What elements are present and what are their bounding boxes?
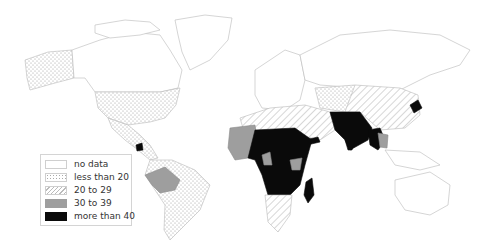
region-canada <box>72 32 182 92</box>
region-sahel-central-east-africa <box>248 128 312 195</box>
legend-label: more than 40 <box>74 211 135 221</box>
swatch-hatched <box>45 186 67 195</box>
swatch-dotted <box>45 173 67 182</box>
legend-label: 30 to 39 <box>74 198 112 208</box>
swatch-black <box>45 212 67 221</box>
region-kenya-area <box>290 158 302 170</box>
region-se-asia-islands <box>385 150 440 170</box>
region-europe <box>255 50 305 110</box>
region-madagascar <box>304 178 314 203</box>
legend-item-30-to-39: 30 to 39 <box>45 197 112 209</box>
region-greenland <box>175 15 232 70</box>
legend-item-no-data: no data <box>45 158 108 170</box>
region-russia <box>300 30 470 90</box>
map-legend: no data less than 20 20 to 29 30 to 39 m… <box>40 154 132 226</box>
region-southern-africa <box>265 195 292 232</box>
legend-item-more-than-40: more than 40 <box>45 210 135 222</box>
region-alaska <box>25 50 74 90</box>
region-india-south <box>345 140 355 150</box>
legend-item-20-to-29: 20 to 29 <box>45 184 112 196</box>
legend-label: less than 20 <box>74 172 129 182</box>
region-australia <box>395 172 450 215</box>
legend-item-less-than-20: less than 20 <box>45 171 129 183</box>
region-usa <box>95 88 180 125</box>
legend-label: no data <box>74 159 108 169</box>
swatch-grey <box>45 199 67 208</box>
swatch-no-data <box>45 160 67 169</box>
legend-label: 20 to 29 <box>74 185 112 195</box>
